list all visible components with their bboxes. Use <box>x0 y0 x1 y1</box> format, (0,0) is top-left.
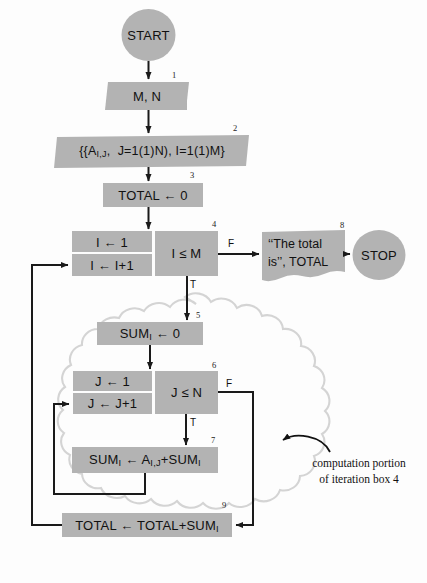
node-9-text: TOTAL ← TOTAL+SUMI <box>75 518 219 534</box>
node-6-init-label: J ← 1 <box>73 372 152 391</box>
node-1-number: 1 <box>172 70 176 80</box>
node-9-number: 9 <box>222 500 226 510</box>
node-4-true-label: T <box>190 279 196 290</box>
node-4-number: 4 <box>212 219 216 229</box>
node-5-label: SUMI ← 0 <box>97 323 203 344</box>
node-9-label: TOTAL ← TOTAL+SUMI <box>62 515 232 536</box>
node-8-line2: is’’, TOTAL <box>268 253 344 271</box>
node-3-number: 3 <box>190 170 194 180</box>
node-7-label: SUMI ← AI,J+SUMI <box>72 449 218 471</box>
node-7-number: 7 <box>211 435 215 445</box>
node-8-label: ‘‘The total is’’, TOTAL <box>268 235 344 271</box>
node-3-label: TOTAL ← 0 <box>103 185 203 206</box>
flowchart-canvas: START STOP M, N 1 {{AI,J, J=1(1)N), I=1(… <box>0 0 427 583</box>
annotation-line-2: of iteration box 4 <box>296 472 422 488</box>
node-6-false-label: F <box>226 378 232 389</box>
node-4-test-label: I ≤ M <box>155 242 218 264</box>
node-6-increment-label: J ← J+1 <box>73 394 152 413</box>
stop-terminal-label: STOP <box>352 243 406 267</box>
node-8-number: 8 <box>340 220 344 230</box>
node-6-true-label: T <box>190 417 196 428</box>
edge-9-back-to-4 <box>32 265 68 525</box>
node-4-false-label: F <box>228 238 234 249</box>
node-4-init-label: I ← 1 <box>72 232 152 252</box>
node-4-increment-label: I ← I+1 <box>72 255 152 275</box>
node-5-number: 5 <box>196 310 200 320</box>
annotation-text: computation portion of iteration box 4 <box>296 456 422 487</box>
node-7-text: SUMI ← AI,J+SUMI <box>89 452 201 468</box>
node-6-number: 6 <box>212 360 216 370</box>
node-6-test-label: J ≤ N <box>155 381 218 403</box>
node-5-text: SUMI ← 0 <box>120 326 181 342</box>
node-2-text: {{AI,J, J=1(1)N), I=1(1)M} <box>79 144 225 159</box>
node-1-label: M, N <box>105 84 189 108</box>
node-2-label: {{AI,J, J=1(1)N), I=1(1)M} <box>57 139 247 163</box>
flowchart-graphics <box>0 0 427 583</box>
start-terminal-label: START <box>121 23 176 47</box>
node-8-line1: ‘‘The total <box>268 235 344 253</box>
node-2-number: 2 <box>233 123 237 133</box>
annotation-line-1: computation portion <box>296 456 422 472</box>
